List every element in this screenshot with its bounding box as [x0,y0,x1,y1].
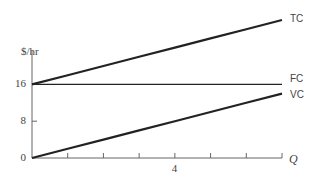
line-tc [32,20,282,84]
series-label-tc: TC [290,14,303,24]
y-tick-label: 8 [21,115,27,126]
y-tick-label: 0 [21,152,27,163]
line-vc [32,94,282,158]
x-tick-label: 4 [172,163,178,174]
cost-curves-chart [0,0,319,183]
y-axis-label: $/hr [21,46,39,57]
y-tick-label: 16 [15,78,26,89]
series-lines [32,20,282,158]
x-axis-label: Q [289,153,298,165]
series-label-fc: FC [290,74,303,84]
series-label-vc: VC [290,90,304,100]
